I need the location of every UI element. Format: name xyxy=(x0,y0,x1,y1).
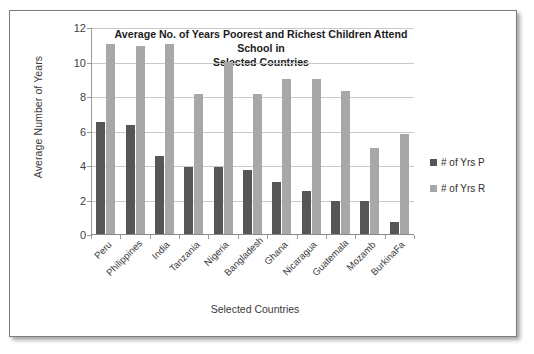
bar[interactable] xyxy=(370,148,379,234)
x-tick-mark xyxy=(414,235,415,239)
bar[interactable] xyxy=(224,62,233,235)
y-tick-mark xyxy=(87,97,91,98)
bar[interactable] xyxy=(302,191,311,234)
y-tick-mark xyxy=(87,28,91,29)
bar-group xyxy=(243,27,262,234)
x-tick-mark xyxy=(208,235,209,239)
bar[interactable] xyxy=(243,170,252,234)
plot-area: 024681012 xyxy=(91,28,414,235)
bar[interactable] xyxy=(165,44,174,234)
x-tick-mark xyxy=(326,235,327,239)
x-tick-mark xyxy=(267,235,268,239)
legend-item[interactable]: # of Yrs P xyxy=(430,157,516,168)
x-tick-mark xyxy=(355,235,356,239)
bar-group xyxy=(331,27,350,234)
bar[interactable] xyxy=(400,134,409,234)
bar[interactable] xyxy=(126,125,135,234)
legend-item[interactable]: # of Yrs R xyxy=(430,183,516,194)
bar-group xyxy=(214,27,233,234)
bar[interactable] xyxy=(331,201,340,234)
legend-label: # of Yrs P xyxy=(441,157,485,168)
y-tick-mark xyxy=(87,63,91,64)
bar-group xyxy=(302,27,321,234)
bar[interactable] xyxy=(106,44,115,234)
bar[interactable] xyxy=(272,182,281,234)
bar-group xyxy=(360,27,379,234)
y-tick-label: 6 xyxy=(80,126,86,138)
bar-chart: Average No. of Years Poorest and Richest… xyxy=(10,11,518,338)
x-axis-title: Selected Countries xyxy=(90,303,420,315)
y-tick-label: 8 xyxy=(80,91,86,103)
bar[interactable] xyxy=(312,79,321,234)
x-tick-mark xyxy=(179,235,180,239)
x-tick-mark xyxy=(238,235,239,239)
bar[interactable] xyxy=(282,79,291,234)
bar[interactable] xyxy=(194,94,203,234)
y-tick-mark xyxy=(87,201,91,202)
bar[interactable] xyxy=(214,167,223,234)
legend-swatch-icon xyxy=(430,159,437,166)
bar[interactable] xyxy=(136,46,145,234)
bar-group xyxy=(184,27,203,234)
bar[interactable] xyxy=(253,94,262,234)
x-tick-mark xyxy=(150,235,151,239)
bar[interactable] xyxy=(155,156,164,234)
bar[interactable] xyxy=(390,222,399,234)
chart-legend: # of Yrs P# of Yrs R xyxy=(430,157,516,209)
chart-frame: Average No. of Years Poorest and Richest… xyxy=(9,10,517,337)
bar[interactable] xyxy=(341,91,350,234)
y-axis-line xyxy=(91,28,92,235)
bar-group xyxy=(272,27,291,234)
bar-group xyxy=(155,27,174,234)
bar[interactable] xyxy=(360,201,369,234)
y-tick-label: 2 xyxy=(80,195,86,207)
y-tick-mark xyxy=(87,166,91,167)
y-tick-mark xyxy=(87,132,91,133)
bar-group xyxy=(96,27,115,234)
x-axis-line xyxy=(91,234,414,235)
y-tick-label: 4 xyxy=(80,160,86,172)
bar[interactable] xyxy=(184,167,193,234)
x-tick-mark xyxy=(91,235,92,239)
y-tick-label: 12 xyxy=(74,22,86,34)
y-tick-label: 0 xyxy=(80,229,86,241)
bar-group xyxy=(390,27,409,234)
bar[interactable] xyxy=(96,122,105,234)
bar-group xyxy=(126,27,145,234)
x-tick-mark xyxy=(385,235,386,239)
y-tick-label: 10 xyxy=(74,57,86,69)
plot-inner xyxy=(91,28,414,235)
x-tick-mark xyxy=(297,235,298,239)
legend-label: # of Yrs R xyxy=(441,183,485,194)
y-axis-title: Average Number of Years xyxy=(32,27,44,207)
legend-swatch-icon xyxy=(430,185,437,192)
x-tick-mark xyxy=(120,235,121,239)
